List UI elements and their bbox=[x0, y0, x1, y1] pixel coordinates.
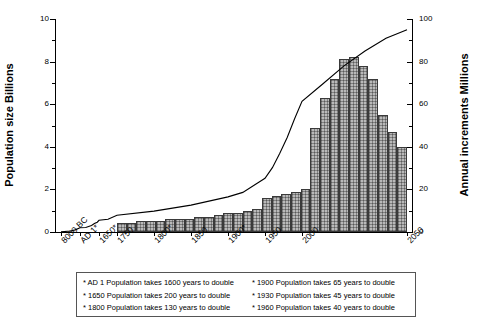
y-axis-right-tick-label: 20 bbox=[419, 185, 449, 193]
bar bbox=[262, 198, 272, 232]
bar bbox=[378, 115, 388, 232]
bar bbox=[214, 215, 224, 232]
legend-item: * 1960 Population takes 40 years to doub… bbox=[252, 302, 409, 315]
y-axis-right-tick-label: 60 bbox=[419, 100, 449, 108]
bar bbox=[310, 128, 320, 232]
y-axis-right-tick-label: 80 bbox=[419, 58, 449, 66]
y-axis-left-tick-label: 6 bbox=[19, 100, 49, 108]
bar bbox=[175, 219, 185, 232]
plot-area: Population size Billions Annual incremen… bbox=[55, 19, 413, 232]
bar bbox=[281, 194, 291, 232]
legend-item: * 1800 Population takes 130 years to dou… bbox=[83, 302, 252, 315]
bar bbox=[349, 57, 359, 232]
bar bbox=[185, 219, 195, 232]
legend-row: * AD 1 Population takes 1600 years to do… bbox=[83, 277, 409, 290]
bar bbox=[320, 98, 330, 232]
bar bbox=[368, 79, 378, 232]
y-axis-left-tick-label: 10 bbox=[19, 15, 49, 23]
bar bbox=[252, 209, 262, 232]
y-axis-right-title: Annual increments Millions bbox=[458, 53, 470, 196]
bar bbox=[397, 147, 407, 232]
y-axis-right-tick-label: 100 bbox=[419, 15, 449, 23]
legend-row: * 1650 Population takes 200 years to dou… bbox=[83, 290, 409, 303]
bar bbox=[223, 213, 233, 232]
legend-row: * 1800 Population takes 130 years to dou… bbox=[83, 302, 409, 315]
y-axis-left-tick-label: 8 bbox=[19, 58, 49, 66]
bar bbox=[359, 66, 369, 232]
chart-figure: Population size Billions Annual incremen… bbox=[0, 0, 487, 329]
bar bbox=[291, 192, 301, 232]
y-axis-left-tick-label: 0 bbox=[19, 228, 49, 236]
bar bbox=[339, 59, 349, 232]
bar bbox=[301, 189, 311, 232]
y-axis-left-tick-label: 2 bbox=[19, 185, 49, 193]
bar bbox=[136, 221, 146, 232]
legend-box: * AD 1 Population takes 1600 years to do… bbox=[76, 272, 416, 317]
bar-series-annual-increments bbox=[55, 19, 413, 232]
bar bbox=[146, 221, 156, 232]
legend-item: * 1650 Population takes 200 years to dou… bbox=[83, 290, 252, 303]
bar bbox=[388, 132, 398, 232]
legend-item: * AD 1 Population takes 1600 years to do… bbox=[83, 277, 252, 290]
legend-item: * 1930 Population takes 45 years to doub… bbox=[252, 290, 409, 303]
bar bbox=[330, 79, 340, 232]
legend-item: * 1900 Population takes 65 years to doub… bbox=[252, 277, 409, 290]
y-axis-left-tick bbox=[50, 232, 56, 233]
y-axis-left-title: Population size Billions bbox=[3, 63, 15, 186]
y-axis-left-tick-label: 4 bbox=[19, 143, 49, 151]
y-axis-right-tick-label: 40 bbox=[419, 143, 449, 151]
